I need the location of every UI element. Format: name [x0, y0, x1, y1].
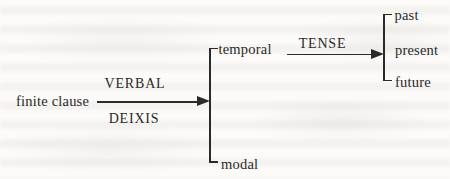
node-finite-clause: finite clause: [16, 94, 89, 109]
node-past: past: [395, 7, 419, 22]
bracket-tense-tick-top: [383, 14, 392, 16]
node-modal: modal: [221, 156, 258, 171]
bracket-tense-vertical: [383, 14, 385, 82]
bracket-tense-tick-bottom: [383, 80, 392, 82]
edge-label-verbal: VERBAL: [100, 77, 170, 91]
node-present: present: [395, 42, 438, 57]
edge-label-tense: TENSE: [292, 37, 353, 51]
node-temporal: temporal: [219, 41, 272, 56]
bracket-deixis-vertical: [209, 48, 211, 164]
edge-line-verbal-deixis: [97, 101, 198, 103]
bracket-deixis-tick-bottom: [209, 161, 218, 163]
arrowhead-right-icon: [371, 49, 384, 59]
arrowhead-right-icon: [197, 96, 210, 106]
edge-line-tense: [287, 54, 372, 56]
edge-label-deixis: DEIXIS: [103, 112, 165, 126]
bracket-deixis-tick-top: [209, 48, 218, 50]
system-network-diagram: finite clause VERBAL DEIXIS temporal mod…: [0, 0, 450, 179]
node-future: future: [395, 74, 431, 89]
